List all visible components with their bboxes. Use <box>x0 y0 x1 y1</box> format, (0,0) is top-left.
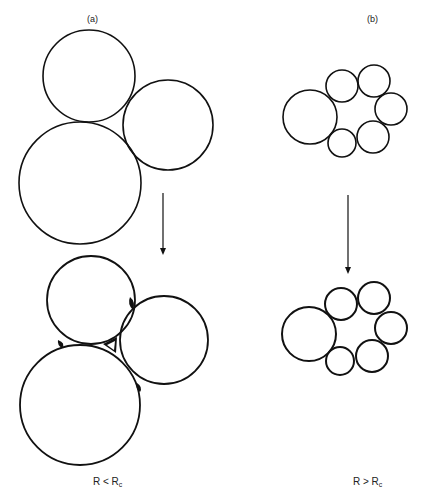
particle-circle <box>358 65 390 97</box>
sintered-particle-circle <box>20 345 140 465</box>
panel-b-after-particles <box>282 282 407 375</box>
panel-b-before-particles <box>283 65 407 157</box>
sintered-particle-circle <box>375 312 407 344</box>
panel-b-label: (b) <box>367 14 378 24</box>
particle-circle <box>43 30 135 122</box>
particle-circle <box>375 93 407 125</box>
panel-b-condition-subscript: c <box>379 481 383 488</box>
panel-a-label: (a) <box>87 14 98 24</box>
sintering-diagram <box>0 0 422 493</box>
panel-a-condition: R < Rc <box>93 476 122 488</box>
sintered-particle-circle <box>326 347 354 375</box>
arrowhead-icon <box>160 248 166 255</box>
sintered-particle-circle <box>356 340 388 372</box>
particle-circle <box>357 121 389 153</box>
sintered-particle-circle <box>325 288 357 320</box>
particle-circle <box>328 129 356 157</box>
panel-a-after-particles <box>20 256 208 465</box>
panel-b-condition-text: R > R <box>353 476 379 487</box>
particle-circle <box>19 122 141 244</box>
panel-a-neck-fillets <box>58 297 141 392</box>
panel-b-condition: R > Rc <box>353 476 382 488</box>
panel-a-condition-text: R < R <box>93 476 119 487</box>
particle-circle <box>283 90 337 144</box>
arrowhead-icon <box>345 267 351 274</box>
sintered-particle-circle <box>358 282 390 314</box>
panel-a-before-particles <box>19 30 213 244</box>
particle-circle <box>123 80 213 170</box>
process-arrows <box>160 193 351 274</box>
particle-circle <box>326 70 358 102</box>
panel-a-condition-subscript: c <box>119 481 123 488</box>
